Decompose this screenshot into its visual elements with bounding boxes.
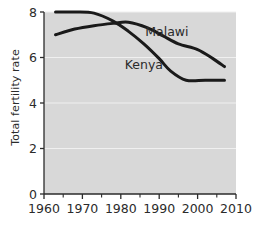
x-tick-label: 2000 — [182, 201, 214, 216]
x-axis-tick-labels: 196019701980199020002010 — [28, 201, 252, 216]
x-tick-label: 1990 — [143, 201, 175, 216]
x-tick-label: 1960 — [28, 201, 60, 216]
series-label-malawi: Malawi — [145, 24, 188, 39]
x-tick-label: 1970 — [66, 201, 98, 216]
x-tick-label: 2010 — [220, 201, 252, 216]
y-tick-label: 6 — [29, 50, 37, 65]
line-chart-svg: 02468 196019701980199020002010 MalawiKen… — [0, 0, 254, 236]
chart-figure: Total fertility rate 02468 1960197019801… — [0, 0, 254, 236]
y-axis-label: Total fertility rate — [9, 49, 22, 146]
series-label-kenya: Kenya — [125, 57, 163, 72]
y-axis-tick-labels: 02468 — [29, 5, 37, 202]
y-tick-label: 8 — [29, 5, 37, 20]
y-tick-label: 4 — [29, 96, 37, 111]
x-tick-label: 1980 — [105, 201, 137, 216]
y-tick-label: 0 — [29, 187, 37, 202]
y-axis-label-container: Total fertility rate — [0, 0, 30, 194]
y-tick-label: 2 — [29, 141, 37, 156]
